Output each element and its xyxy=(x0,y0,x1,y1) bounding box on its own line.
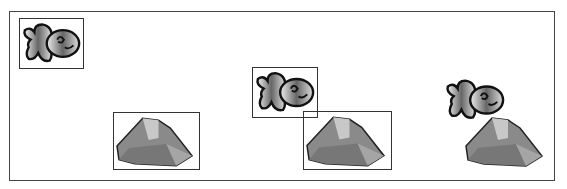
rock-icon xyxy=(305,113,390,168)
fish-icon xyxy=(254,69,316,116)
rock-icon xyxy=(115,114,198,168)
fish-icon xyxy=(21,20,82,67)
fish-icon xyxy=(444,76,506,124)
